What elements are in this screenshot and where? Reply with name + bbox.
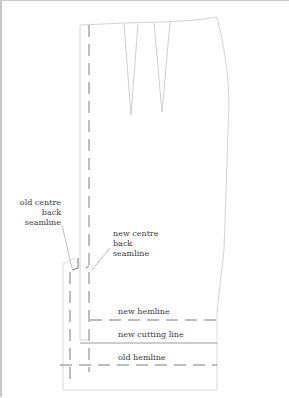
label-old-centre-back-seamline: old centre back seamline — [20, 198, 61, 228]
skirt-outline — [80, 17, 229, 340]
label-new-cutting-line: new cutting line — [118, 330, 184, 340]
label-old-hemline: old hemline — [118, 353, 166, 363]
label-new-hemline: new hemline — [118, 307, 170, 317]
old-centre-back-seamline — [72, 258, 78, 270]
new-seamline-leader — [92, 248, 110, 270]
dart-1 — [124, 24, 138, 115]
label-new-centre-back-seamline: new centre back seamline — [113, 229, 158, 259]
dart-2 — [154, 22, 170, 112]
old-hem-extension-outline — [63, 264, 217, 390]
